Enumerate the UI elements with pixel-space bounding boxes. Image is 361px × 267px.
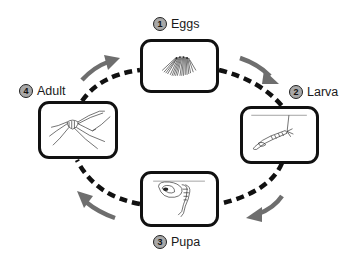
egg-raft-icon: [143, 42, 216, 90]
stage-box-pupa: [140, 171, 219, 227]
stage-label-eggs: 1 Eggs: [153, 17, 200, 31]
stage-label-adult: 4 Adult: [19, 84, 66, 98]
stage-name: Pupa: [171, 235, 200, 249]
larva-icon: [243, 109, 316, 161]
stage-label-larva: 2 Larva: [289, 85, 338, 99]
number-badge: 2: [289, 85, 303, 99]
arrowhead-eggs-to-larva: [262, 70, 279, 84]
arrowhead-larva-to-pupa: [246, 207, 262, 222]
number-badge: 3: [153, 235, 167, 249]
stage-label-pupa: 3 Pupa: [153, 235, 200, 249]
stage-name: Adult: [37, 84, 66, 98]
stage-box-larva: [240, 106, 319, 164]
number-badge: 4: [19, 84, 33, 98]
arrow-pupa-to-adult: [86, 202, 115, 218]
arrowhead-adult-to-eggs: [104, 55, 120, 70]
number-badge: 1: [153, 17, 167, 31]
arrow-adult-to-eggs: [82, 62, 108, 80]
stage-name: Eggs: [171, 17, 200, 31]
mosquito-icon: [41, 104, 115, 156]
stage-name: Larva: [307, 85, 338, 99]
stage-box-eggs: [140, 39, 219, 93]
pupa-icon: [143, 174, 216, 224]
stage-box-adult: [38, 101, 118, 159]
